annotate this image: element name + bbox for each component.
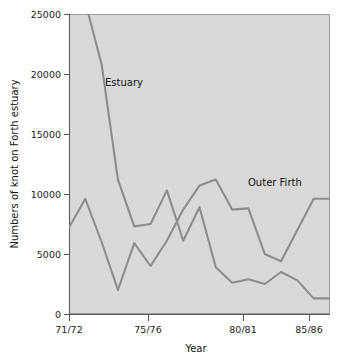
y-tick-label-10000: 10000 (31, 189, 61, 200)
x-tick-label-8081: 80/81 (229, 324, 256, 335)
annotation-estuary: Estuary (105, 77, 143, 88)
x-axis-ticks (70, 315, 310, 322)
chart-figure: 0 5000 10000 15000 20000 25000 71/72 75/… (0, 0, 347, 362)
line-chart: 0 5000 10000 15000 20000 25000 71/72 75/… (0, 0, 347, 362)
x-tick-label-7576: 75/76 (134, 324, 161, 335)
x-axis-title: Year (184, 343, 207, 354)
x-tick-label-7172: 71/72 (55, 324, 82, 335)
y-tick-label-5000: 5000 (37, 249, 61, 260)
plot-background (69, 14, 330, 314)
y-axis-title: Numbers of knot on Forth estuary (9, 79, 20, 248)
x-tick-label-8586: 85/86 (295, 324, 322, 335)
y-tick-label-25000: 25000 (31, 9, 61, 20)
y-axis-ticks (64, 15, 70, 315)
y-tick-label-0: 0 (55, 309, 61, 320)
y-tick-label-15000: 15000 (31, 129, 61, 140)
y-tick-label-20000: 20000 (31, 69, 61, 80)
annotation-outer-firth: Outer Firth (248, 177, 302, 188)
